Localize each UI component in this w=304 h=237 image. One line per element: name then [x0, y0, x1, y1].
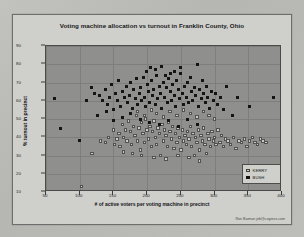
data-point-bush: [186, 118, 189, 121]
data-point-kerry: [248, 139, 251, 142]
data-point-bush: [98, 94, 101, 97]
data-point-bush: [152, 88, 155, 91]
legend-item-bush[interactable]: BUSH: [246, 174, 281, 181]
gridline-horizontal: [46, 46, 280, 47]
data-point-bush: [173, 70, 176, 73]
legend-item-kerry[interactable]: KERRY: [246, 167, 281, 174]
data-point-bush: [158, 85, 161, 88]
data-point-bush: [225, 85, 228, 88]
data-point-kerry: [171, 125, 174, 128]
y-axis-tick-label: 40: [5, 134, 21, 139]
x-axis-tick-mark: [146, 191, 147, 195]
data-point-bush: [158, 123, 161, 126]
data-point-bush: [169, 72, 172, 75]
data-point-kerry: [243, 137, 246, 140]
y-axis-tick-mark: [41, 99, 45, 100]
data-point-bush: [181, 92, 184, 95]
photo-background: Voting machine allocation vs turnout in …: [0, 0, 304, 237]
data-point-bush: [167, 119, 170, 122]
data-point-bush: [163, 96, 166, 99]
data-point-bush: [179, 72, 182, 75]
data-point-kerry: [112, 128, 115, 131]
data-point-bush: [108, 96, 111, 99]
data-point-bush: [193, 86, 196, 89]
data-point-bush: [173, 94, 176, 97]
data-point-kerry: [172, 147, 175, 150]
data-point-bush: [196, 123, 199, 126]
data-point-kerry: [80, 185, 83, 188]
data-point-kerry: [175, 141, 178, 144]
plot-area: KERRY BUSH: [45, 45, 281, 191]
data-point-kerry: [148, 125, 151, 128]
data-point-kerry: [124, 128, 127, 131]
data-point-bush: [169, 90, 172, 93]
x-axis-tick-mark: [247, 191, 248, 195]
data-point-bush: [171, 83, 174, 86]
data-point-kerry: [154, 136, 157, 139]
data-point-bush: [139, 118, 142, 121]
data-point-kerry: [168, 130, 171, 133]
data-point-bush: [110, 83, 113, 86]
chart-legend[interactable]: KERRY BUSH: [242, 164, 281, 184]
data-point-bush: [150, 79, 153, 82]
data-point-kerry: [178, 136, 181, 139]
data-point-kerry: [198, 159, 201, 162]
x-axis-tick-mark: [281, 191, 282, 195]
data-point-kerry: [145, 128, 148, 131]
data-point-kerry: [141, 132, 144, 135]
data-point-bush: [142, 76, 145, 79]
data-point-bush: [272, 96, 275, 99]
data-point-kerry: [99, 139, 102, 142]
data-point-bush: [148, 101, 151, 104]
data-point-kerry: [203, 143, 206, 146]
data-point-bush: [214, 92, 217, 95]
data-point-kerry: [107, 136, 110, 139]
data-point-bush: [154, 68, 157, 71]
data-point-bush: [112, 108, 115, 111]
data-point-bush: [138, 92, 141, 95]
y-axis-tick-mark: [41, 118, 45, 119]
y-axis-tick-label: 20: [5, 170, 21, 175]
data-point-kerry: [132, 125, 135, 128]
credit-text: Ron Baiman jeb@cogress.com: [235, 217, 285, 221]
data-point-bush: [189, 76, 192, 79]
data-point-kerry: [185, 143, 188, 146]
data-point-bush: [177, 125, 180, 128]
data-point-bush: [156, 97, 159, 100]
data-point-bush: [93, 92, 96, 95]
data-point-bush: [179, 66, 182, 69]
data-point-kerry: [213, 117, 216, 120]
data-point-bush: [144, 105, 147, 108]
data-point-kerry: [135, 114, 138, 117]
data-point-kerry: [125, 139, 128, 142]
data-point-kerry: [136, 139, 139, 142]
data-point-kerry: [195, 141, 198, 144]
y-axis-tick-mark: [41, 63, 45, 64]
data-point-bush: [151, 94, 154, 97]
data-point-kerry: [144, 117, 147, 120]
data-point-bush: [160, 107, 163, 110]
data-point-bush: [78, 139, 81, 142]
data-point-kerry: [190, 145, 193, 148]
data-point-kerry: [155, 143, 158, 146]
data-point-bush: [205, 85, 208, 88]
data-point-bush: [197, 105, 200, 108]
data-point-bush: [140, 99, 143, 102]
data-point-kerry: [187, 137, 190, 140]
data-point-bush: [177, 88, 180, 91]
data-point-bush: [147, 90, 150, 93]
data-point-kerry: [214, 143, 217, 146]
data-point-bush: [182, 103, 185, 106]
data-point-kerry: [179, 148, 182, 151]
data-point-kerry: [160, 123, 163, 126]
data-point-kerry: [121, 123, 124, 126]
data-point-kerry: [143, 114, 146, 117]
data-point-bush: [202, 92, 205, 95]
y-axis-tick-mark: [41, 136, 45, 137]
data-point-bush: [175, 79, 178, 82]
legend-swatch-bush-icon: [246, 176, 250, 180]
data-point-bush: [212, 99, 215, 102]
data-point-bush: [201, 79, 204, 82]
y-axis-tick-label: 70: [5, 79, 21, 84]
data-point-bush: [187, 101, 190, 104]
